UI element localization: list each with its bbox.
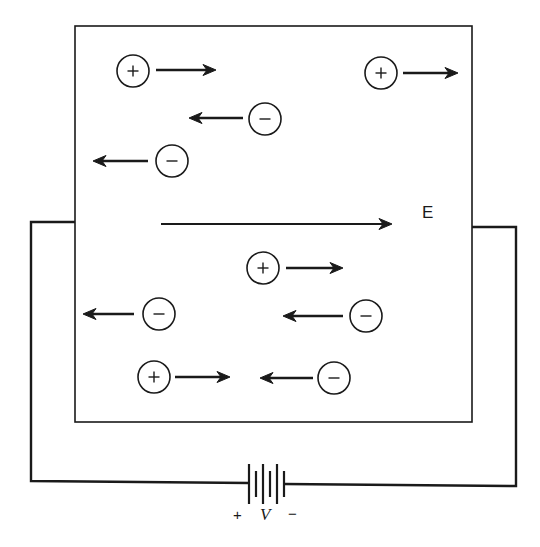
left-wire <box>31 222 249 483</box>
field-label: E <box>422 203 433 223</box>
positive-charge <box>247 252 343 284</box>
right-wire <box>284 227 516 486</box>
negative-charge <box>283 300 382 332</box>
negative-charge <box>93 145 188 177</box>
battery-positive-label: + <box>233 506 242 523</box>
negative-charge <box>83 298 175 330</box>
positive-charge <box>138 361 230 393</box>
positive-charge <box>117 55 216 87</box>
negative-charge <box>189 103 281 135</box>
field-arrow-icon <box>161 219 392 230</box>
diagram-canvas: E + V − <box>0 0 540 547</box>
battery-icon <box>249 464 284 504</box>
negative-charge <box>260 362 350 394</box>
battery-negative-label: − <box>288 505 297 522</box>
positive-charge <box>365 57 458 89</box>
circuit-diagram <box>0 0 540 547</box>
battery-voltage-label: V <box>260 505 270 525</box>
